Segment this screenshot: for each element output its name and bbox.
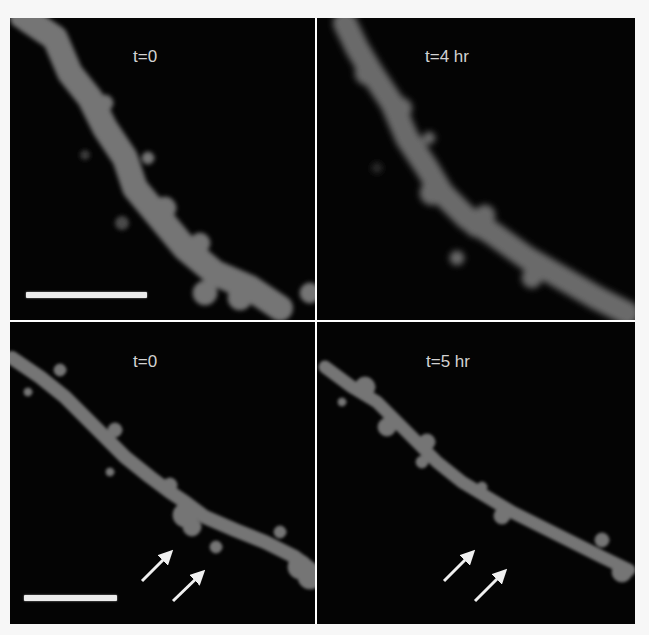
timepoint-label: t=5 hr bbox=[426, 353, 470, 370]
arrow-indicator bbox=[142, 553, 170, 581]
panel-top-right: t=4 hr bbox=[317, 18, 635, 320]
panel-bottom-left: t=0 bbox=[10, 322, 315, 624]
dendrite-image bbox=[10, 18, 315, 320]
arrow-indicator bbox=[173, 573, 202, 601]
scale-bar bbox=[26, 292, 147, 298]
scale-bar bbox=[24, 595, 117, 601]
microscopy-figure: t=0 t=4 hr bbox=[10, 18, 635, 624]
timepoint-label: t=0 bbox=[133, 48, 157, 65]
dendrite-image bbox=[317, 322, 635, 624]
panel-bottom-right: t=5 hr bbox=[317, 322, 635, 624]
timepoint-label: t=4 hr bbox=[425, 48, 469, 65]
arrow-indicator bbox=[475, 572, 504, 601]
dendrite-image bbox=[10, 322, 315, 624]
panel-top-left: t=0 bbox=[10, 18, 315, 320]
timepoint-label: t=0 bbox=[133, 353, 157, 370]
dendrite-image bbox=[317, 18, 635, 320]
arrow-indicator bbox=[444, 553, 472, 581]
cropped-caption-text bbox=[0, 0, 649, 8]
